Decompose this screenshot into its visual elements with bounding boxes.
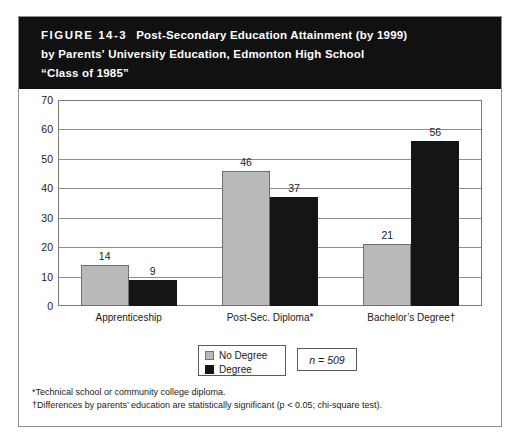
legend-swatch-degree-icon xyxy=(205,365,214,374)
bar-value-label: 37 xyxy=(288,182,300,194)
bar-degree xyxy=(129,280,177,306)
y-axis-tick-label: 30 xyxy=(23,212,53,224)
figure-title-line-3: “Class of 1985” xyxy=(41,64,407,83)
y-axis-tick-labels: 010203040506070 xyxy=(19,100,53,306)
legend-label-degree: Degree xyxy=(219,364,252,375)
figure-number: FIGURE 14-3 xyxy=(41,29,127,41)
gridline xyxy=(59,129,481,130)
bar-value-label: 21 xyxy=(381,229,393,241)
x-axis-category-label: Post-Sec. Diploma* xyxy=(227,312,314,323)
y-axis-tick-label: 0 xyxy=(23,300,53,312)
y-axis-tick-label: 60 xyxy=(23,123,53,135)
figure-title-text-1: Post-Secondary Education Attainment (by … xyxy=(136,29,407,41)
y-axis-tick-label: 20 xyxy=(23,241,53,253)
figure-title-block: FIGURE 14-3Post-Secondary Education Atta… xyxy=(41,26,407,83)
chart-area: 010203040506070 14946372156 Apprenticesh… xyxy=(19,89,501,427)
legend-item-no-degree: No Degree xyxy=(205,349,285,361)
y-axis-tick-label: 40 xyxy=(23,182,53,194)
chart-legend: No Degree Degree xyxy=(198,345,286,376)
y-axis-tick-label: 50 xyxy=(23,153,53,165)
bar-no-degree xyxy=(222,171,270,306)
sample-size-text: n = 509 xyxy=(309,354,344,366)
footnote-1: *Technical school or community college d… xyxy=(32,386,382,399)
footnote-2: †Differences by parents’ education are s… xyxy=(32,399,382,412)
bar-value-label: 56 xyxy=(429,126,441,138)
x-axis-category-label: Apprenticeship xyxy=(96,312,162,323)
y-axis-tick-label: 10 xyxy=(23,271,53,283)
legend-swatch-no-degree-icon xyxy=(205,351,214,360)
bar-value-label: 9 xyxy=(150,265,156,277)
footnotes-block: *Technical school or community college d… xyxy=(32,386,382,411)
bar-value-label: 46 xyxy=(240,156,252,168)
sample-size-box: n = 509 xyxy=(297,348,357,371)
figure-title-line-1: FIGURE 14-3Post-Secondary Education Atta… xyxy=(41,26,407,45)
bar-no-degree xyxy=(363,244,411,306)
figure-header-band: FIGURE 14-3Post-Secondary Education Atta… xyxy=(19,17,501,89)
bar-value-label: 14 xyxy=(99,250,111,262)
legend-item-degree: Degree xyxy=(205,363,285,375)
figure-frame: FIGURE 14-3Post-Secondary Education Atta… xyxy=(18,16,502,427)
bar-no-degree xyxy=(81,265,129,306)
bar-degree xyxy=(270,197,318,306)
figure-title-line-2: by Parents' University Education, Edmont… xyxy=(41,45,407,64)
legend-label-no-degree: No Degree xyxy=(219,350,267,361)
x-axis-category-label: Bachelor’s Degree† xyxy=(367,312,455,323)
bar-degree xyxy=(411,141,459,306)
y-axis-tick-label: 70 xyxy=(23,94,53,106)
